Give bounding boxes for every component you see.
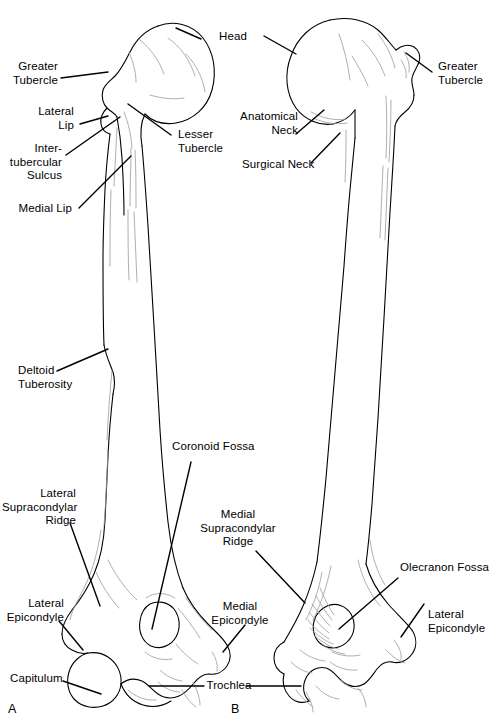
posterior-medial-epicondyle [274, 642, 284, 674]
label-medial-epicondyle: Medial Epicondyle [204, 600, 276, 627]
posterior-medial-shaft-border [317, 138, 355, 562]
posterior-trochlea-outline [304, 667, 364, 701]
label-trochlea: Trochlea [206, 679, 252, 693]
leader-head-left [176, 28, 201, 39]
leader-intertubercular-sulcus [66, 117, 120, 155]
posterior-greater-tubercle-lower [395, 95, 414, 126]
posterior-lateral-epicondyle [392, 630, 416, 663]
leader-greater-tubercle-right [406, 53, 432, 72]
posterior-head-outline [287, 20, 333, 124]
anterior-head-medial-curve [141, 114, 145, 146]
label-anatomical-neck: Anatomical Neck [238, 110, 298, 137]
label-greater-tubercle-right: Greater Tubercle [438, 60, 492, 87]
label-olecranon-fossa: Olecranon Fossa [400, 561, 492, 575]
leader-olecranon-fossa [339, 578, 398, 629]
posterior-anatomical-neck [333, 110, 355, 124]
label-medial-lip: Medial Lip [2, 202, 72, 216]
label-greater-tubercle-left: Greater Tubercle [2, 60, 58, 87]
leader-head-right [264, 36, 296, 54]
posterior-distal-lateral-edge [364, 662, 392, 684]
posterior-distal-medial-rim [283, 674, 309, 702]
label-lateral-epicondyle-right: Lateral Epicondyle [428, 608, 492, 635]
anterior-lateral-epicondyle [62, 634, 88, 653]
humerus-figure: Greater Tubercle Lateral Lip Inter- tube… [0, 0, 492, 723]
anterior-distal-rim [121, 684, 171, 706]
label-capitulum: Capitulum [10, 672, 72, 686]
anterior-capitulum [68, 653, 121, 708]
leader-greater-tubercle-left [61, 72, 108, 78]
posterior-bone-detail-lines [291, 34, 409, 712]
anterior-lateral-shaft-border [103, 134, 110, 345]
label-intertubercular-sulcus: Inter- tubercular Sulcus [2, 142, 62, 183]
posterior-olecranon-fossa [313, 604, 354, 647]
leader-medial-supracondylar-ridge [256, 551, 305, 603]
posterior-lateral-shaft-border [366, 126, 395, 564]
leader-lesser-tubercle [128, 104, 171, 135]
anterior-deltoid-tuberosity [104, 345, 115, 394]
anterior-head-outline [145, 23, 214, 123]
leader-lateral-supracondylar-ridge [70, 523, 100, 606]
anterior-coronoid-fossa [140, 602, 180, 648]
panel-letter-b: B [231, 702, 239, 716]
label-medial-supracondylar-ridge: Medial Supracondylar Ridge [196, 508, 280, 549]
posterior-greater-tubercle-outline [396, 45, 420, 95]
label-lateral-supracondylar-ridge: Lateral Supracondylar Ridge [2, 487, 76, 528]
label-lateral-epicondyle-left: Lateral Epicondyle [2, 597, 64, 624]
label-surgical-neck: Surgical Neck [242, 158, 322, 172]
label-coronoid-fossa: Coronoid Fossa [172, 440, 272, 454]
leader-lateral-lip [80, 116, 108, 124]
leader-medial-epicondyle [223, 625, 245, 652]
leader-coronoid-fossa [152, 462, 191, 629]
panel-letter-a: A [8, 702, 16, 716]
anterior-greater-tubercle-outline [102, 26, 158, 117]
label-head: Head [208, 30, 258, 44]
label-deltoid-tuberosity: Deltoid Tuberosity [18, 364, 92, 391]
label-lesser-tubercle: Lesser Tubercle [178, 128, 238, 155]
anterior-medial-epicondyle [209, 645, 230, 674]
label-lateral-lip: Lateral Lip [18, 105, 74, 132]
